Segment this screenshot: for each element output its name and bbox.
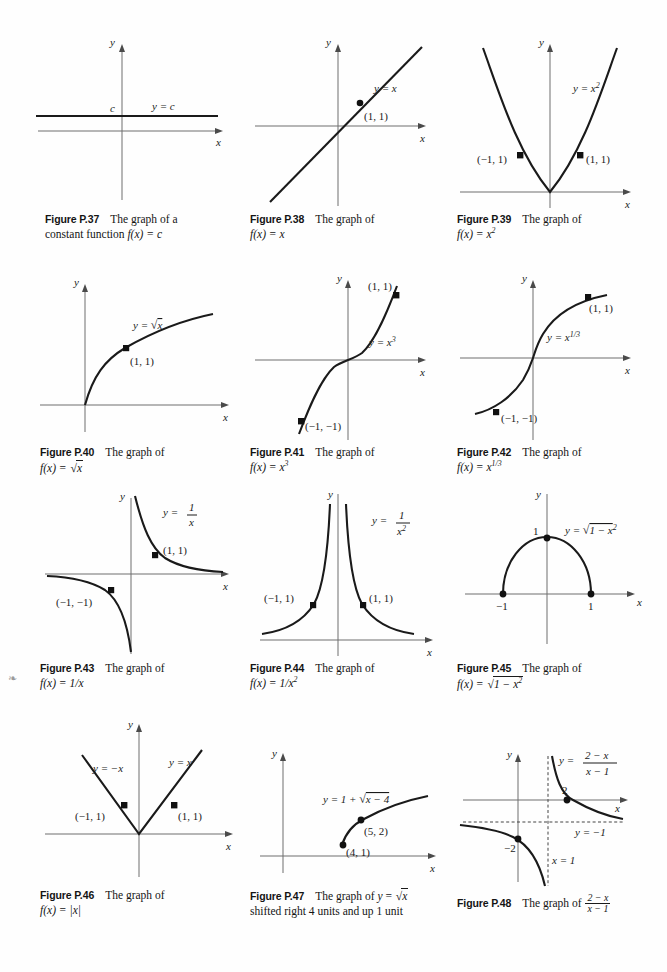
point-marker	[358, 817, 365, 824]
y-axis-label: y	[506, 748, 512, 760]
x-axis-label: x	[419, 366, 425, 378]
y-axis-label: y	[521, 272, 527, 284]
point-label-p45-left: −1	[496, 600, 508, 612]
figure-graph-p38: y x y = x (1, 1)	[250, 30, 440, 210]
point-marker	[588, 591, 595, 598]
svg-text:x − 1: x − 1	[585, 765, 609, 777]
figure-graph-p43: y x y = 1 x (1, 1) (−1, −1)	[35, 492, 235, 662]
point-label-p38-0: (1, 1)	[364, 110, 388, 123]
figure-graph-p46: y x y = −x y = x (−1, 1) (1, 1)	[35, 722, 245, 882]
caption-p43: Figure P.43The graph of f(x) = 1/x	[40, 661, 165, 691]
curve-label-p46-left: y = −x	[92, 762, 123, 774]
figure-graph-p47: y x y = 1 + √x − 4 (5, 2) (4, 1)	[250, 745, 450, 885]
x-axis-label: x	[636, 596, 642, 608]
figure-panel-p46: y x y = −x y = x (−1, 1) (1, 1)	[35, 722, 245, 882]
asymptote-label-horizontal: y = −1	[574, 826, 606, 838]
axes-p43	[45, 498, 229, 654]
caption-p47: Figure P.47The graph of y = √x shifted r…	[250, 888, 408, 919]
caption-p45: Figure P.45The graph of f(x) = √1 − x2	[457, 661, 582, 692]
point-label-p42-0: (1, 1)	[589, 302, 613, 315]
point-label-p45-top: 1	[533, 525, 539, 537]
point-marker	[564, 797, 571, 804]
point-label-p46-1: (1, 1)	[178, 810, 202, 823]
caption-text-p41: The graph of	[315, 446, 374, 458]
figure-panel-p43: y x y = 1 x (1, 1) (−1, −1)	[35, 492, 235, 662]
caption-p39: Figure P.39The graph of f(x) = x2	[457, 212, 582, 242]
curve-label-p43: y = 1 x	[162, 501, 197, 528]
caption-p40: Figure P.40The graph of f(x) = √x	[40, 445, 165, 476]
caption-math-p43: f(x) = 1/x	[40, 677, 84, 689]
point-marker	[393, 292, 399, 298]
caption-math-p48-num: 2 − x	[585, 893, 610, 904]
x-axis-label: x	[225, 840, 231, 852]
figure-graph-p48: y x y = 2 − x x − 1 2 −2 y = −1 x = 1	[455, 742, 660, 887]
figure-panel-p41: y x y = x3 (1, 1) (−1, −1)	[250, 268, 445, 443]
textbook-page: ❧ y x c y = c Figure P.37The graph of a …	[0, 0, 667, 972]
figure-panel-p48: y x y = 2 − x x − 1 2 −2 y = −1 x = 1	[455, 742, 660, 887]
point-label-p41-0: (1, 1)	[368, 280, 392, 293]
figure-number-p39: Figure P.39	[457, 213, 511, 225]
y-axis-label: y	[336, 272, 342, 284]
caption-math-p48: 2 − xx − 1	[585, 893, 610, 915]
caption-math-p37: f(x) = c	[127, 228, 162, 240]
point-label-p43-0: (1, 1)	[163, 544, 187, 557]
point-marker	[577, 152, 583, 158]
caption-text-p46: The graph of	[105, 889, 164, 901]
x-axis-label: x	[624, 198, 630, 210]
curve-p48-branch-left	[460, 825, 545, 886]
point-label-p47-1: (4, 1)	[346, 846, 370, 859]
figure-graph-p42: y x y = x1/3 (1, 1) (−1, −1)	[455, 268, 650, 443]
point-label-p46-0: (−1, 1)	[75, 810, 105, 823]
point-label-p43-1: (−1, −1)	[56, 596, 93, 609]
caption-prefix-p37: constant function	[45, 228, 127, 240]
caption-text-p47-b: shifted right 4 units and up 1 unit	[250, 905, 403, 917]
caption-text-p37: The graph of a	[110, 213, 177, 225]
point-marker	[517, 152, 523, 158]
x-axis-label: x	[419, 132, 425, 144]
y-axis-label: y	[109, 36, 115, 48]
x-axis-label: x	[426, 646, 432, 658]
asymptote-label-vertical: x = 1	[551, 854, 575, 866]
curve-p42	[475, 295, 607, 414]
figure-number-p44: Figure P.44	[250, 662, 304, 674]
caption-text-p45: The graph of	[522, 662, 581, 674]
caption-math-p41: f(x) = x3	[250, 461, 288, 473]
curve-label-p48: y = 2 − x x − 1	[558, 749, 617, 777]
curve-label-p45: y = √1 − x2	[564, 523, 617, 537]
figure-number-p48: Figure P.48	[457, 897, 511, 909]
caption-p44: Figure P.44The graph of f(x) = 1/x2	[250, 661, 375, 691]
point-marker	[500, 591, 507, 598]
figure-number-p41: Figure P.41	[250, 446, 304, 458]
caption-text-p44: The graph of	[315, 662, 374, 674]
caption-text-p42: The graph of	[522, 446, 581, 458]
caption-math-p48-den: x − 1	[585, 903, 610, 915]
figure-graph-p39: y x y = x2 (−1, 1) (1, 1)	[455, 30, 650, 210]
caption-math-p46: f(x) = |x|	[40, 904, 81, 916]
point-label-p39-1: (1, 1)	[586, 153, 610, 166]
axes-p46	[45, 724, 233, 877]
point-marker	[585, 294, 591, 300]
point-label-p42-1: (−1, −1)	[501, 412, 538, 425]
margin-mark: ❧	[8, 672, 17, 685]
caption-p42: Figure P.42The graph of f(x) = x1/3	[457, 445, 582, 475]
x-axis-label: x	[614, 802, 620, 814]
caption-text-p39: The graph of	[522, 213, 581, 225]
point-label-p39-0: (−1, 1)	[477, 153, 507, 166]
point-marker	[310, 602, 316, 608]
y-axis-label: y	[73, 276, 79, 288]
figure-number-p45: Figure P.45	[457, 662, 511, 674]
axes-p39	[460, 44, 631, 208]
figure-number-p37: Figure P.37	[45, 213, 99, 225]
caption-math-p39: f(x) = x2	[457, 228, 495, 240]
y-axis-label: y	[119, 492, 125, 502]
curve-p43-branch2	[47, 576, 131, 652]
figure-panel-p39: y x y = x2 (−1, 1) (1, 1)	[455, 30, 650, 210]
caption-text-p48: The graph of	[522, 897, 581, 909]
figure-graph-p41: y x y = x3 (1, 1) (−1, −1)	[250, 268, 445, 443]
svg-text:1: 1	[399, 509, 405, 521]
y-axis-label: y	[127, 722, 133, 730]
svg-text:y =: y =	[558, 754, 574, 766]
svg-text:y =: y =	[371, 514, 387, 526]
figure-graph-p37: y x c y = c	[30, 30, 230, 205]
c-value-label: c	[110, 102, 115, 114]
